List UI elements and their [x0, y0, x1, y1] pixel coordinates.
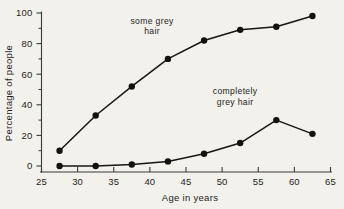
- series-annotation-1: some greyhair: [130, 16, 174, 37]
- x-tick-label: 60: [289, 176, 300, 187]
- x-tick-label: 65: [325, 176, 336, 187]
- x-tick-label: 35: [108, 176, 119, 187]
- data-point: [92, 112, 98, 118]
- data-point: [201, 151, 207, 157]
- x-tick-label: 40: [144, 176, 155, 187]
- data-point: [309, 131, 315, 137]
- y-tick-label: 60: [22, 69, 33, 80]
- data-point: [56, 163, 62, 169]
- x-tick-label: 30: [72, 176, 83, 187]
- y-axis-title: Percentage of people: [3, 45, 14, 141]
- series-annotation-2: completelygrey hair: [213, 86, 258, 107]
- y-axis: 020406080100: [16, 7, 41, 172]
- data-point: [273, 24, 279, 30]
- y-tick-label: 0: [27, 160, 32, 171]
- x-tick-label: 50: [217, 176, 228, 187]
- data-point: [56, 148, 62, 154]
- annotation-line-1: completely: [213, 86, 258, 96]
- y-tick-label: 80: [22, 38, 33, 49]
- series-2: [56, 117, 315, 169]
- x-tick-label: 55: [253, 176, 264, 187]
- series-line: [60, 120, 313, 166]
- y-tick-label: 40: [22, 99, 33, 110]
- annotation-line-2: hair: [144, 26, 160, 36]
- data-point: [237, 140, 243, 146]
- data-point: [237, 27, 243, 33]
- series-line: [60, 16, 313, 151]
- x-tick-label: 25: [36, 176, 47, 187]
- data-point: [129, 83, 135, 89]
- data-point: [92, 163, 98, 169]
- data-point: [165, 56, 171, 62]
- data-point: [309, 13, 315, 19]
- chart-figure: 020406080100 253035404550556065 some gre…: [0, 0, 344, 209]
- data-point: [201, 37, 207, 43]
- line-chart: 020406080100 253035404550556065 some gre…: [0, 0, 344, 209]
- data-point: [165, 158, 171, 164]
- data-point: [273, 117, 279, 123]
- series-layer: [56, 13, 315, 169]
- x-axis: 253035404550556065: [36, 167, 336, 187]
- series-1: [56, 13, 315, 154]
- y-tick-label: 20: [22, 130, 33, 141]
- x-axis-title: Age in years: [162, 192, 218, 203]
- y-tick-label: 100: [16, 7, 32, 18]
- data-point: [129, 161, 135, 167]
- x-tick-label: 45: [181, 176, 192, 187]
- annotation-line-1: some grey: [130, 16, 174, 26]
- annotation-line-2: grey hair: [217, 97, 254, 107]
